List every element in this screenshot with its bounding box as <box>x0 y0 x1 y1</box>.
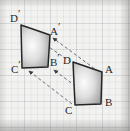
label-a-prime: A′ <box>50 26 60 37</box>
label-c-text: C <box>65 104 72 116</box>
label-c: C <box>65 105 72 116</box>
label-d-text: D <box>63 54 71 66</box>
image-quadrilateral <box>21 25 50 68</box>
vector-c-to-c-prime <box>29 71 72 104</box>
label-c-prime: C′ <box>11 64 21 75</box>
label-d: D <box>63 55 71 66</box>
label-b: B <box>105 97 112 108</box>
geometry-figure: D′A′B′C′DABC <box>0 0 130 131</box>
label-a-text: A <box>105 63 113 75</box>
label-c-prime-prime-mark: ′ <box>18 58 20 70</box>
label-a-prime-text: A <box>50 25 58 37</box>
label-d-prime-text: D <box>10 12 18 24</box>
label-d-prime-prime-mark: ′ <box>18 7 20 19</box>
label-b-text: B <box>105 96 112 108</box>
label-a: A <box>105 64 113 75</box>
label-b-prime-prime-mark: ′ <box>57 51 59 63</box>
preimage-quadrilateral <box>73 62 102 105</box>
label-a-prime-prime-mark: ′ <box>58 20 60 32</box>
label-d-prime: D′ <box>10 13 20 24</box>
label-b-prime: B′ <box>50 57 60 68</box>
